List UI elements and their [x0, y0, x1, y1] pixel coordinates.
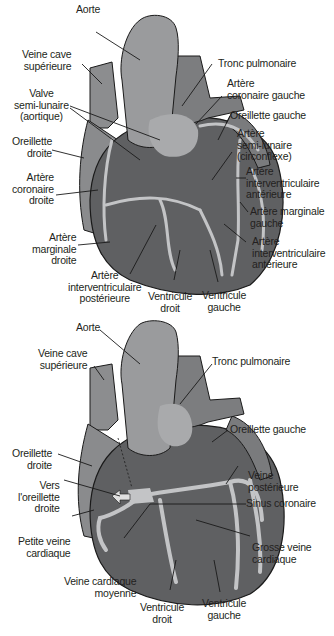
label-ventricule-gauche: Ventricule gauche — [202, 290, 246, 313]
label-artere-interventriculaire-posterieure: Artère interventriculaire postérieure — [68, 270, 141, 305]
label-grosse-veine-cardiaque: Grosse veine cardiaque — [252, 542, 311, 565]
label-aorte-veins: Aorte — [76, 322, 100, 334]
label-tronc-pulmonaire-veins: Tronc pulmonaire — [212, 356, 290, 368]
label-veine-posterieure: Veine postérieure — [248, 470, 298, 493]
label-artere-circonflexe: Artère semi-lunaire (circonflexe) — [237, 128, 292, 163]
label-sinus-coronaire: Sinus coronaire — [246, 498, 316, 510]
label-artere-coronaire-gauche: Artère coronaire gauche — [227, 78, 305, 101]
label-oreillette-gauche: Oreillette gauche — [230, 110, 306, 122]
label-veine-cave-superieure-veins: Veine cave supérieure — [38, 348, 87, 371]
label-ventricule-droit-veins: Ventricule droit — [140, 602, 184, 625]
label-veine-cave-superieure: Veine cave supérieure — [22, 49, 71, 72]
coronary-arteries-diagram: Aorte Veine cave supérieure Valve semi-l… — [0, 0, 334, 320]
label-artere-coronaire-droite: Artère coronaire droite — [12, 172, 54, 207]
label-valve-aortique: Valve semi-lunaire (aortique) — [14, 88, 69, 123]
label-artere-marginale-gauche: Artère marginale gauche — [250, 206, 324, 229]
label-aorte: Aorte — [76, 4, 100, 16]
label-petite-veine-cardiaque: Petite veine cardiaque — [18, 536, 70, 559]
label-ventricule-droit: Ventricule droit — [148, 291, 192, 314]
label-artere-marginale-droite: Artère marginale droite — [32, 232, 76, 267]
label-oreillette-droite: Oreillette droite — [12, 136, 52, 159]
label-ventricule-gauche-veins: Ventricule gauche — [202, 598, 246, 621]
cardiac-veins-diagram: Aorte Veine cave supérieure Tronc pulmon… — [0, 320, 334, 636]
label-vers-oreillette-droite: Vers l'oreillette droite — [18, 480, 60, 515]
label-oreillette-gauche-veins: Oreillette gauche — [230, 424, 306, 436]
label-artere-interventriculaire-anterieure-2: Artère interventriculaire antérieure — [252, 236, 325, 271]
label-oreillette-droite-veins: Oreillette droite — [12, 448, 52, 471]
label-artere-interventriculaire-anterieure-1: Artère interventriculaire antérieure — [246, 166, 319, 201]
label-tronc-pulmonaire: Tronc pulmonaire — [218, 58, 296, 70]
label-veine-cardiaque-moyenne: Veine cardiaque moyenne — [64, 576, 136, 599]
